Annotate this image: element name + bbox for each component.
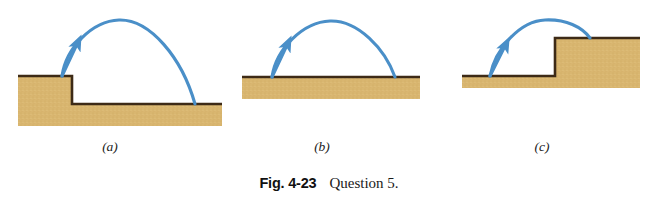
panel-a: [18, 20, 222, 126]
trajectory-direction-arrow-a: [62, 42, 78, 76]
figure-number: Fig. 4-23: [259, 175, 316, 191]
figure-container: (a) (b) (c) Fig. 4-23Question 5.: [0, 0, 658, 206]
figure-caption-text: Question 5.: [329, 175, 398, 191]
trajectory-direction-arrow-b: [272, 43, 288, 77]
trajectory-path-b: [272, 21, 395, 77]
trajectory-path-a: [62, 20, 195, 104]
panel-label-a: (a): [80, 139, 140, 155]
ground-shape-a: [18, 76, 222, 126]
figure-caption: Fig. 4-23Question 5.: [0, 174, 658, 192]
ground-shape-b: [242, 77, 420, 99]
trajectory-direction-arrow-c: [490, 44, 506, 76]
panel-label-b: (b): [292, 139, 352, 155]
panel-label-c: (c): [512, 139, 572, 155]
panel-b: [242, 21, 420, 99]
ground-shape-c: [462, 38, 640, 88]
panel-c: [462, 20, 640, 88]
